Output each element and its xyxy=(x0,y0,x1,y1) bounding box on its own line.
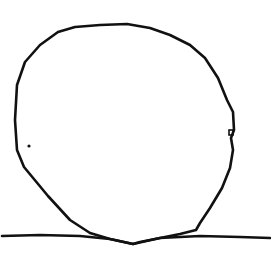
sketch-canvas xyxy=(0,0,271,264)
background xyxy=(0,0,271,264)
dot xyxy=(27,144,30,147)
